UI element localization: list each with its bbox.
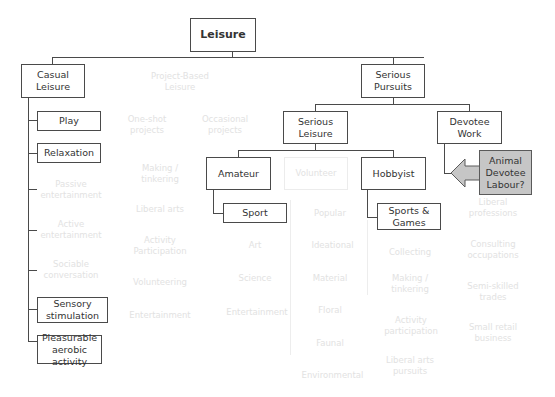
faded-liberal-professions: Liberal professions [458,196,528,220]
node-label: Liberal professions [458,197,528,219]
faded-faunal: Faunal [300,336,360,350]
faded-environmental: Environmental [295,368,370,382]
node-label: Sports & Games [378,205,440,229]
connector [28,153,37,154]
node-label: Liberal arts [136,204,184,215]
connector [315,143,316,150]
connector [469,104,470,111]
connector [28,120,37,121]
faded-one-shot-projects: One-shot projects [112,113,182,137]
node-label: Passive entertainment [36,179,106,201]
node-label: One-shot projects [112,114,182,136]
node-label: Activity participation [378,315,444,337]
node-label: Relaxation [44,147,94,159]
faded-connector [290,200,291,355]
faded-material: Material [300,271,360,285]
node-label: Animal Devotee Labour? [480,155,531,191]
faded-project-based-leisure: Project-Based Leisure [145,70,215,94]
faded-connector [367,220,368,295]
faded-popular: Popular [300,206,360,220]
connector [444,143,445,173]
node-label: Activity Participation [125,235,195,257]
node-label: Making / tinkering [380,273,440,295]
connector [28,341,37,342]
faded-hobby-making-tinkering: Making / tinkering [380,272,440,296]
node-label: Popular [314,208,346,219]
node-pleasurable-aerobic-activity[interactable]: Pleasurable aerobic activity [37,335,102,364]
node-play[interactable]: Play [37,111,101,131]
connector [213,213,223,214]
node-label: Play [59,115,79,127]
faded-semi-skilled-trades: Semi-skilled trades [458,280,528,304]
faded-making-tinkering: Making / tinkering [125,162,195,186]
node-label: Hobbyist [373,168,415,180]
node-label: Amateur [218,168,259,180]
node-label: Sensory stimulation [38,298,107,322]
node-label: Devotee Work [438,116,501,140]
faded-art: Art [225,238,285,252]
node-label: Making / tinkering [125,163,195,185]
node-label: Liberal arts pursuits [380,355,440,377]
node-sensory-stimulation[interactable]: Sensory stimulation [37,297,108,323]
faded-consulting-occupations: Consulting occupations [458,238,528,262]
node-devotee-work[interactable]: Devotee Work [437,111,502,144]
node-label: Occasional projects [190,114,260,136]
node-label: Semi-skilled trades [458,281,528,303]
connector [393,97,394,104]
node-animal-devotee-labour[interactable]: Animal Devotee Labour? [479,150,532,195]
node-label: Environmental [302,370,364,381]
node-label: Leisure [200,29,246,41]
node-label: Sport [242,207,268,219]
node-sport[interactable]: Sport [223,203,287,223]
connector [213,189,214,213]
node-label: Project-Based Leisure [145,71,215,93]
connector [238,150,394,151]
faded-sociable-conversation: Sociable conversation [36,258,106,282]
faded-active-entertainment: Active entertainment [36,218,106,242]
node-sports-games[interactable]: Sports & Games [377,203,441,230]
node-serious-pursuits[interactable]: Serious Pursuits [361,64,425,98]
connector [315,104,470,105]
node-label: Small retail business [458,322,528,344]
node-label: Material [313,273,348,284]
connector [315,104,316,111]
faded-passive-entertainment: Passive entertainment [36,178,106,202]
node-leisure[interactable]: Leisure [190,18,256,52]
connector [52,57,424,58]
faded-collecting: Collecting [380,245,440,259]
node-label: Sociable conversation [36,259,106,281]
node-label: Science [239,273,272,284]
faded-floral: Floral [300,303,360,317]
faded-occasional-projects: Occasional projects [190,113,260,137]
node-label: Ideational [311,240,353,251]
faded-amateur-entertainment: Entertainment [222,305,292,319]
faded-volunteer: Volunteer [284,157,348,190]
connector [238,150,239,157]
node-casual-leisure[interactable]: Casual Leisure [21,64,85,98]
connector [28,309,37,310]
node-label: Volunteer [296,168,337,179]
node-label: Faunal [316,338,344,349]
node-label: Casual Leisure [22,69,84,93]
faded-ideational: Ideational [300,238,365,252]
node-serious-leisure[interactable]: Serious Leisure [283,111,348,144]
node-label: Pleasurable aerobic activity [38,332,101,368]
left-arrow-icon [451,155,481,191]
faded-liberal-arts-pursuits: Liberal arts pursuits [380,354,440,378]
node-label: Art [249,240,262,251]
node-label: Entertainment [129,310,190,321]
node-label: Consulting occupations [458,239,528,261]
node-label: Volunteering [133,277,187,288]
node-label: Entertainment [226,307,287,318]
node-label: Active entertainment [36,219,106,241]
node-label: Serious Pursuits [362,69,424,93]
connector [367,189,368,217]
node-amateur[interactable]: Amateur [206,157,271,190]
node-relaxation[interactable]: Relaxation [37,143,101,163]
faded-small-retail-business: Small retail business [458,321,528,345]
faded-science: Science [225,271,285,285]
node-hobbyist[interactable]: Hobbyist [361,157,426,190]
faded-entertainment: Entertainment [125,308,195,322]
connector [28,97,29,341]
node-label: Collecting [389,247,431,258]
